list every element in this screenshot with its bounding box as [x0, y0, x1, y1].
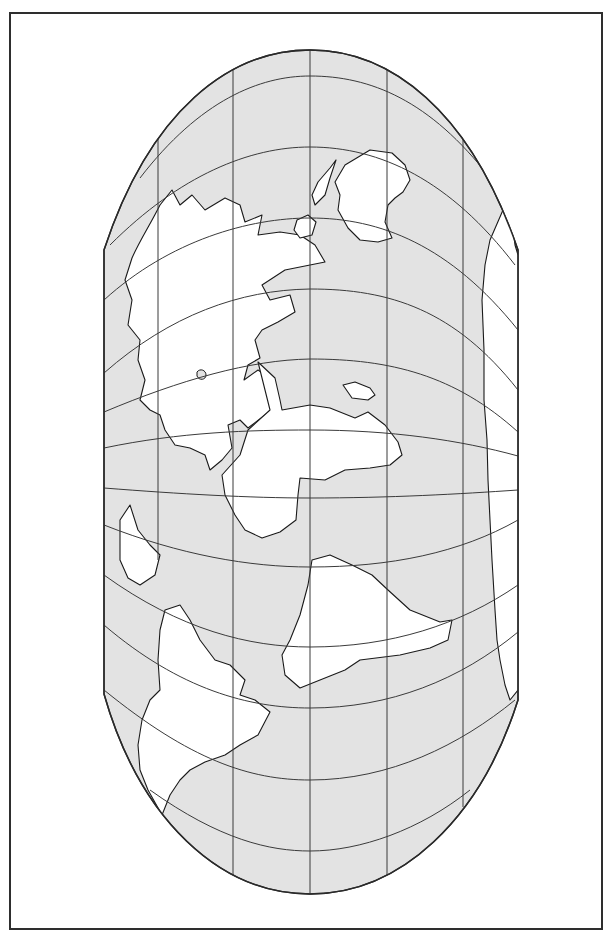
east-small-peninsula — [480, 125, 510, 170]
world-map — [0, 0, 616, 936]
